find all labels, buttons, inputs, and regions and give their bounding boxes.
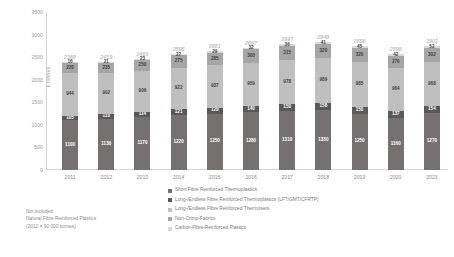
legend-item[interactable]: Short Fibre Reinforced Thermoplastics (168, 186, 368, 196)
bar-segment[interactable]: 32 (243, 48, 259, 49)
bar-segment[interactable]: 1270 (424, 113, 440, 170)
bar-segment[interactable]: 1160 (388, 118, 404, 170)
segment-value-label: 150 (283, 105, 291, 110)
bar-segment[interactable]: 285 (207, 53, 223, 66)
bar-group[interactable]: 11001059442201623682011 (62, 62, 78, 170)
legend-swatch-icon (168, 217, 172, 221)
segment-value-label: 23 (140, 57, 145, 62)
segment-value-label: 45 (357, 45, 362, 50)
segment-value-label: 150 (356, 108, 364, 113)
legend-label: Non-Crimp-Fabrics (175, 217, 216, 222)
bar-segment[interactable]: 959 (243, 63, 259, 106)
bar-segment[interactable]: 154 (424, 106, 440, 113)
plot-area: k tonnes 0500100015002000250030003500 11… (46, 12, 444, 170)
bar-segment[interactable]: 52 (424, 46, 440, 48)
bar-segment[interactable]: 270 (388, 56, 404, 68)
legend-item[interactable]: Non-Crimp-Fabrics (168, 215, 368, 225)
segment-value-label: 1250 (210, 139, 220, 144)
bar-group[interactable]: 11601379642704225982020 (388, 54, 404, 170)
bar-segment[interactable]: 21 (98, 62, 114, 63)
bar-segment[interactable]: 1130 (98, 119, 114, 170)
segment-value-label: 968 (428, 82, 436, 87)
bar-segment[interactable]: 150 (279, 104, 295, 111)
segment-value-label: 285 (211, 57, 219, 62)
bar-segment[interactable]: 1220 (171, 115, 187, 170)
segment-value-label: 902 (102, 91, 110, 96)
bar-segment[interactable]: 158 (315, 103, 331, 110)
bar-segment[interactable]: 1250 (207, 114, 223, 170)
bar-segment[interactable]: 110 (98, 114, 114, 119)
bar-group[interactable]: 12501299372852926812015 (207, 51, 223, 170)
bar-total-label: 2598 (390, 46, 402, 52)
bar-segment[interactable]: 320 (352, 48, 368, 62)
bar-group[interactable]: 12501509853204528962019 (352, 46, 368, 170)
bar-segment[interactable]: 300 (243, 49, 259, 63)
bar-total-label: 2848 (317, 34, 329, 40)
legend-item[interactable]: Long-/Endless Fibre Reinforced Thermoset… (168, 205, 368, 215)
segment-value-label: 1130 (101, 142, 111, 147)
bar-segment[interactable]: 41 (315, 42, 331, 44)
bar-segment[interactable]: 1250 (352, 114, 368, 170)
bar-segment[interactable]: 114 (134, 112, 150, 117)
y-tick-label: 2000 (31, 77, 43, 83)
x-tick-label: 2014 (173, 174, 185, 180)
bar-group[interactable]: 12701549683025229022021 (424, 46, 440, 170)
bar-group[interactable]: 12201219222752725952014 (171, 54, 187, 170)
segment-value-label: 129 (211, 108, 219, 113)
segment-value-label: 320 (356, 53, 364, 58)
bar-segment[interactable]: 29 (207, 51, 223, 52)
bar-segment[interactable]: 1280 (243, 112, 259, 170)
bar-segment[interactable]: 968 (424, 62, 440, 106)
bar-segment[interactable]: 922 (171, 68, 187, 110)
legend-item[interactable]: Carbon-Fibre-Reinforced Plastics (168, 224, 368, 234)
bar-segment[interactable]: 121 (171, 109, 187, 114)
x-tick-label: 2017 (281, 174, 293, 180)
bar-segment[interactable]: 315 (279, 46, 295, 60)
bar-segment[interactable]: 1100 (62, 120, 78, 170)
legend-item[interactable]: Long-/Endless Fibre Reinforced Thermopla… (168, 196, 368, 206)
bar-segment[interactable]: 1310 (279, 111, 295, 170)
bar-group[interactable]: 12801409593003226972016 (243, 48, 259, 170)
bar-segment[interactable]: 129 (207, 108, 223, 114)
segment-value-label: 42 (393, 53, 398, 58)
bar-segment[interactable]: 906 (134, 71, 150, 112)
bar-total-label: 2902 (426, 38, 438, 44)
bar-segment[interactable]: 137 (388, 111, 404, 117)
x-tick-label: 2011 (65, 174, 76, 180)
bar-total-label: 2368 (64, 54, 76, 60)
x-tick-label: 2021 (426, 174, 438, 180)
bar-total-label: 2697 (245, 40, 257, 46)
bar-segment[interactable]: 985 (352, 62, 368, 106)
bar-segment[interactable]: 27 (171, 54, 187, 55)
segment-value-label: 964 (392, 87, 400, 92)
bar-segment[interactable]: 902 (98, 73, 114, 114)
bar-segment[interactable]: 140 (243, 106, 259, 112)
bar-segment[interactable]: 105 (62, 116, 78, 121)
bar-segment[interactable]: 989 (315, 58, 331, 103)
bar-segment[interactable]: 302 (424, 48, 440, 62)
legend-swatch-icon (168, 227, 172, 231)
x-tick-label: 2012 (100, 174, 112, 180)
bar-group[interactable]: 13301589893204128482018 (315, 42, 331, 170)
bar-segment[interactable]: 45 (352, 46, 368, 48)
bar-segment[interactable]: 937 (207, 65, 223, 107)
bar-segment[interactable]: 964 (388, 68, 404, 112)
legend-swatch-icon (168, 189, 172, 193)
bar-segment[interactable]: 320 (315, 44, 331, 58)
bar-segment[interactable]: 978 (279, 60, 295, 104)
bar-segment[interactable]: 150 (352, 107, 368, 114)
bar-segment[interactable]: 1170 (134, 117, 150, 170)
bar-segment[interactable]: 1330 (315, 110, 331, 170)
bar-group[interactable]: 11701149062502324932013 (134, 59, 150, 170)
bar-group[interactable]: 11301109022352124192012 (98, 62, 114, 170)
bar-group[interactable]: 13101509783153626972017 (279, 44, 295, 170)
bar-segment[interactable]: 23 (134, 59, 150, 60)
bar-segment[interactable]: 42 (388, 54, 404, 56)
bar-segment[interactable]: 36 (279, 44, 295, 46)
y-tick-label: 500 (34, 144, 43, 150)
bar-segment[interactable]: 16 (62, 62, 78, 63)
x-tick-label: 2016 (245, 174, 257, 180)
bar-segment[interactable]: 275 (171, 55, 187, 67)
segment-value-label: 121 (175, 110, 183, 115)
bar-segment[interactable]: 944 (62, 73, 78, 116)
